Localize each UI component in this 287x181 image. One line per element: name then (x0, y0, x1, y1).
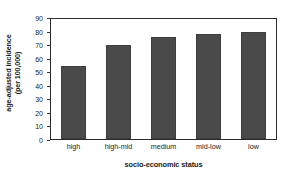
x-axis-tick-label: high (51, 142, 96, 154)
bar-chart: age-adjusted incidence (per 100,000) 010… (0, 0, 287, 181)
x-axis-title: socio-economic status (50, 160, 277, 169)
x-axis-tick-labels: highhigh-midmediummid-lowlow (51, 142, 276, 154)
y-axis-title: age-adjusted incidence (per 100,000) (0, 0, 26, 145)
bar-slot (51, 19, 96, 139)
y-axis-tick-label: 40 (35, 82, 43, 89)
y-axis-tick-label: 90 (35, 15, 43, 22)
bar-slot (186, 19, 231, 139)
bar-slot (96, 19, 141, 139)
x-axis-tick-label: high-mid (96, 142, 141, 154)
y-axis-tick-mark (47, 140, 50, 141)
bar (61, 66, 86, 139)
y-axis-tick-label: 10 (35, 123, 43, 130)
bar (241, 32, 266, 139)
y-axis-tick-label: 60 (35, 55, 43, 62)
y-axis-tick-label: 70 (35, 42, 43, 49)
x-axis-tick-label: medium (141, 142, 186, 154)
y-axis-tick-label: 50 (35, 69, 43, 76)
y-axis-tick-label: 30 (35, 96, 43, 103)
y-axis-tick-label: 80 (35, 28, 43, 35)
bar (151, 37, 176, 139)
bar-slot (231, 19, 276, 139)
y-axis-tick-label: 0 (39, 137, 43, 144)
x-axis-tick-label: mid-low (186, 142, 231, 154)
bar (106, 45, 131, 139)
bar-slot (141, 19, 186, 139)
y-axis-tick-label: 20 (35, 109, 43, 116)
y-axis-tick-labels: 0102030405060708090 (26, 18, 46, 140)
x-axis-tick-label: low (231, 142, 276, 154)
y-axis-title-line2: (per 100,000) (13, 34, 22, 111)
bars-container (51, 19, 276, 139)
bar (196, 34, 221, 139)
